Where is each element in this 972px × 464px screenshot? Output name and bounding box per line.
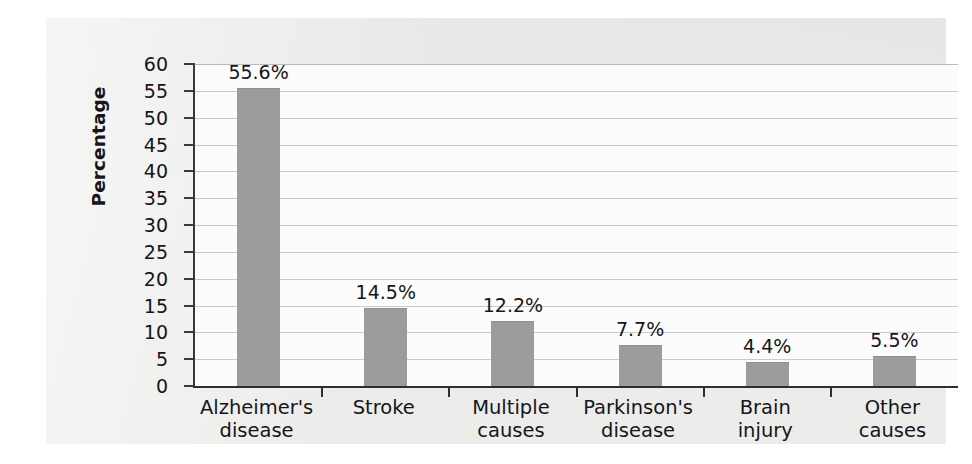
gridline [195, 198, 958, 199]
y-axis-tick-label: 30 [124, 216, 168, 235]
y-axis-tick-label: 45 [124, 135, 168, 154]
y-axis-tick-label: 5 [124, 350, 168, 369]
gridline [195, 118, 958, 119]
y-axis-tick-label: 55 [124, 81, 168, 100]
x-axis-category-label: Alzheimer'sdisease [200, 396, 313, 442]
gridline [195, 171, 958, 172]
y-axis-tick-label: 20 [124, 269, 168, 288]
y-axis-tick-label: 35 [124, 189, 168, 208]
y-axis-tick-label-group: 051015202530354045505560 [124, 55, 168, 386]
gridline [195, 332, 958, 333]
y-axis-tick-label: 15 [124, 296, 168, 315]
bar-value-label: 12.2% [483, 296, 543, 315]
gridline [195, 359, 958, 360]
gridline [195, 225, 958, 226]
bar [237, 88, 280, 386]
x-axis-category-label-group: Alzheimer'sdiseaseStrokeMultiplecausesPa… [193, 396, 956, 458]
y-axis-tick-mark [184, 63, 195, 65]
y-axis-tick-label: 40 [124, 162, 168, 181]
gridline [195, 279, 958, 280]
gridline [195, 145, 958, 146]
y-axis-tick-mark [184, 117, 195, 119]
bar [873, 356, 916, 386]
bar-value-label: 14.5% [356, 283, 416, 302]
bar-value-label: 55.6% [228, 63, 288, 82]
y-axis-tick-mark [184, 385, 195, 387]
gridline [195, 91, 958, 92]
y-axis-tick-mark [184, 251, 195, 253]
x-axis-category-label: Braininjury [738, 396, 793, 442]
y-axis-tick-mark [184, 331, 195, 333]
figure-panel: Percentage 051015202530354045505560 55.6… [46, 18, 946, 444]
x-axis-category-label: Stroke [353, 396, 415, 419]
y-axis-tick-mark [184, 170, 195, 172]
gridline [195, 252, 958, 253]
y-axis-tick-mark [184, 305, 195, 307]
gridline [195, 306, 958, 307]
bar [491, 321, 534, 386]
y-axis-tick-mark [184, 144, 195, 146]
y-axis-title: Percentage [88, 57, 109, 237]
y-axis-tick-label: 0 [124, 377, 168, 396]
y-axis-tick-label: 10 [124, 323, 168, 342]
y-axis-tick-mark [184, 358, 195, 360]
y-axis-tick-mark [184, 90, 195, 92]
bar-value-label: 5.5% [870, 331, 918, 350]
y-axis-tick-mark [184, 278, 195, 280]
x-axis-category-label: Parkinson'sdisease [583, 396, 693, 442]
y-axis-tick-mark [184, 197, 195, 199]
bar [619, 345, 662, 386]
bar-value-label: 4.4% [743, 337, 791, 356]
bar [364, 308, 407, 386]
y-axis-tick-mark [184, 224, 195, 226]
y-axis-tick-label: 60 [124, 55, 168, 74]
gridline [195, 64, 958, 65]
x-axis-category-label: Othercauses [859, 396, 926, 442]
bar [746, 362, 789, 386]
plot-area: 55.6%14.5%12.2%7.7%4.4%5.5% [193, 64, 958, 388]
x-axis-category-label: Multiplecauses [472, 396, 549, 442]
y-axis-tick-label: 50 [124, 108, 168, 127]
y-axis-tick-label: 25 [124, 242, 168, 261]
bar-value-label: 7.7% [616, 320, 664, 339]
